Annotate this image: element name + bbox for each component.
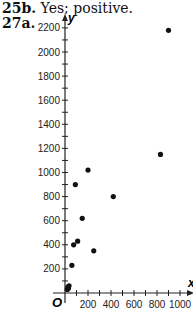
data-point <box>85 167 90 172</box>
data-point <box>71 242 76 247</box>
y-tick-label: 600 <box>43 215 60 226</box>
data-point <box>73 182 78 187</box>
scatter-plot: 2004006008001000120014001600180020002200… <box>0 0 193 313</box>
data-point <box>66 283 71 288</box>
y-tick-label: 1800 <box>38 71 61 82</box>
y-tick-label: 800 <box>43 191 60 202</box>
x-tick-label: 200 <box>80 299 97 310</box>
x-arrow-icon <box>187 290 193 296</box>
data-point <box>80 216 85 221</box>
data-point <box>91 248 96 253</box>
x-axis-label: x <box>187 276 193 290</box>
y-tick-label: 1600 <box>38 95 61 106</box>
y-tick-label: 400 <box>43 239 60 250</box>
data-point <box>75 239 80 244</box>
data-point <box>158 152 163 157</box>
x-tick-label: 800 <box>149 299 166 310</box>
data-point <box>111 194 116 199</box>
x-tick-label: 400 <box>103 299 120 310</box>
y-tick-label: 200 <box>43 263 60 274</box>
y-tick-label: 1200 <box>38 143 61 154</box>
y-tick-label: 2000 <box>38 47 61 58</box>
y-tick-label: 2200 <box>38 22 61 33</box>
y-tick-label: 1000 <box>38 167 61 178</box>
y-axis-label: y <box>67 11 76 25</box>
data-point <box>166 28 171 33</box>
x-tick-label: 600 <box>126 299 143 310</box>
y-tick-label: 1400 <box>38 119 61 130</box>
origin-label: O <box>52 295 62 310</box>
x-tick-label: 1000 <box>169 299 192 310</box>
data-point <box>69 263 74 268</box>
